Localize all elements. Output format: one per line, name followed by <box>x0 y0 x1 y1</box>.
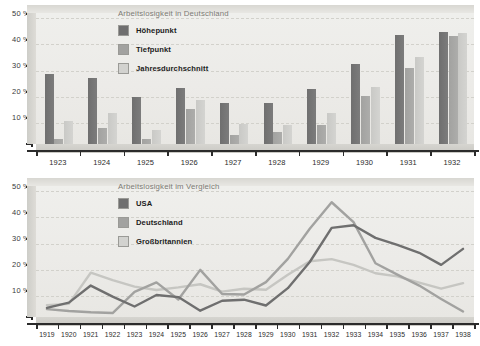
x-axis-tick <box>233 324 235 329</box>
x-axis-label-1933: 1933 <box>343 331 365 338</box>
x-axis-label-1920: 1920 <box>58 331 80 338</box>
x-axis-label-1921: 1921 <box>80 331 102 338</box>
legend-label: Deutschland <box>136 218 183 227</box>
x-axis-label-1937: 1937 <box>430 331 452 338</box>
x-axis-tick <box>124 151 126 156</box>
bar-1926-höhepunkt <box>176 88 185 144</box>
legend-title: Arbeitslosigkeit im Vergleich <box>118 182 219 191</box>
x-axis-label-1928: 1928 <box>255 158 299 167</box>
bar-1931-höhepunkt <box>395 35 404 144</box>
x-axis-tick <box>102 324 104 329</box>
legend-label: Jahresdurchschnitt <box>136 64 208 73</box>
legend-swatch-icon <box>118 236 129 247</box>
legend-germany: Arbeitslosigkeit in Deutschland Höhepunk… <box>118 9 229 80</box>
line-series-container <box>36 186 474 317</box>
x-axis-tick <box>255 151 257 156</box>
x-axis-tick <box>80 151 82 156</box>
y-axis-labels-bottom: 50 % 40 % 30 % 20 % 10 % <box>0 173 30 323</box>
legend-swatch-icon <box>118 44 129 55</box>
legend-item-deutschland[interactable]: Deutschland <box>118 215 219 230</box>
x-axis-label-1935: 1935 <box>386 331 408 338</box>
bar-1927-jahresdurchschnitt <box>239 124 248 144</box>
x-axis-tick <box>365 324 367 329</box>
legend-swatch-icon <box>118 198 129 209</box>
x-axis-tick <box>211 324 213 329</box>
line-series-deutschland <box>47 202 463 313</box>
x-axis-line-bottom <box>27 323 479 325</box>
bar-1927-tiefpunkt <box>230 135 239 144</box>
bar-1924-jahresdurchschnitt <box>108 113 117 144</box>
x-axis-label-1927: 1927 <box>211 331 233 338</box>
x-axis-tick <box>299 151 301 156</box>
x-axis-tick <box>36 324 38 329</box>
x-axis-label-1924: 1924 <box>80 158 124 167</box>
x-axis-label-1922: 1922 <box>102 331 124 338</box>
legend-item-usa[interactable]: USA <box>118 196 219 211</box>
plot-area-comparison <box>36 186 474 317</box>
x-axis-tick <box>189 324 191 329</box>
x-axis-label-1932: 1932 <box>321 331 343 338</box>
bar-1929-höhepunkt <box>307 89 316 144</box>
bar-1927-höhepunkt <box>220 103 229 144</box>
x-axis-label-1927: 1927 <box>211 158 255 167</box>
bar-1924-höhepunkt <box>88 78 97 144</box>
bar-1931-jahresdurchschnitt <box>415 57 424 144</box>
plot-area-germany <box>36 13 474 144</box>
x-axis-tick <box>343 151 345 156</box>
legend-item-jahresdurchschnitt[interactable]: Jahresdurchschnitt <box>118 61 229 76</box>
bar-1926-tiefpunkt <box>186 109 195 144</box>
x-axis-line-top <box>27 150 479 152</box>
plot-left-face <box>27 178 36 317</box>
bar-1930-tiefpunkt <box>361 96 370 144</box>
legend-label: Tiefpunkt <box>136 45 171 54</box>
x-axis-tick <box>211 151 213 156</box>
bar-group-container <box>36 13 474 144</box>
y-axis-labels-top: 50 % 40 % 30 % 20 % 10 % <box>0 0 30 150</box>
x-axis-label-1923: 1923 <box>124 331 146 338</box>
x-axis-label-1919: 1919 <box>36 331 58 338</box>
x-axis-tick <box>80 324 82 329</box>
x-axis-label-1934: 1934 <box>365 331 387 338</box>
x-axis-label-1930: 1930 <box>277 331 299 338</box>
bar-1932-jahresdurchschnitt <box>458 33 467 144</box>
legend-swatch-icon <box>118 217 129 228</box>
legend-item-grossbritannien[interactable]: Großbritannien <box>118 234 219 249</box>
bar-1923-jahresdurchschnitt <box>64 121 73 144</box>
x-axis-tick <box>299 324 301 329</box>
bar-1931-tiefpunkt <box>405 68 414 144</box>
x-axis-tick <box>474 151 476 156</box>
x-axis-tick <box>36 151 38 156</box>
legend-swatch-icon <box>118 25 129 36</box>
x-axis-tick <box>146 324 148 329</box>
x-axis-label-1930: 1930 <box>343 158 387 167</box>
x-axis-label-1936: 1936 <box>408 331 430 338</box>
x-axis-label-1926: 1926 <box>189 331 211 338</box>
x-axis-label-1924: 1924 <box>146 331 168 338</box>
bar-1923-höhepunkt <box>45 74 54 144</box>
line-series-usa <box>47 225 463 310</box>
x-axis-label-1938: 1938 <box>452 331 474 338</box>
bar-1930-jahresdurchschnitt <box>371 87 380 144</box>
legend-item-hoehepunkt[interactable]: Höhepunkt <box>118 23 229 38</box>
plot-left-face <box>27 5 36 144</box>
legend-comparison: Arbeitslosigkeit im Vergleich USA Deutsc… <box>118 182 219 253</box>
x-axis-tick <box>474 324 476 329</box>
x-axis-tick <box>430 324 432 329</box>
legend-label: Höhepunkt <box>136 26 177 35</box>
bar-1929-tiefpunkt <box>317 125 326 144</box>
chart-panel-comparison: 50 % 40 % 30 % 20 % 10 % <box>0 173 480 346</box>
bar-1924-tiefpunkt <box>98 128 107 144</box>
x-axis-tick <box>386 324 388 329</box>
x-axis-label-1923: 1923 <box>36 158 80 167</box>
x-axis-label-1925: 1925 <box>167 331 189 338</box>
x-axis-tick <box>255 324 257 329</box>
x-axis-tick <box>408 324 410 329</box>
legend-label: Großbritannien <box>136 237 192 246</box>
x-axis-label-1929: 1929 <box>255 331 277 338</box>
x-axis-tick <box>124 324 126 329</box>
x-axis-tick <box>452 324 454 329</box>
bar-1925-höhepunkt <box>132 97 141 144</box>
bar-1925-jahresdurchschnitt <box>152 130 161 144</box>
legend-item-tiefpunkt[interactable]: Tiefpunkt <box>118 42 229 57</box>
x-axis-tick <box>321 324 323 329</box>
